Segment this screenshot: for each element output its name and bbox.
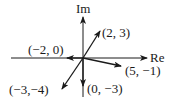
vector-label-2-3: (2, 3)	[102, 25, 130, 40]
vector-2-3	[83, 31, 100, 58]
vector-label-neg2-0: (−2, 0)	[28, 42, 64, 57]
imaginary-axis-label: Im	[76, 1, 90, 16]
vector-label-5-neg1: (5, −1)	[125, 63, 161, 78]
vector-label-0-neg3: (0, −3)	[87, 81, 123, 96]
vector-neg3-neg4	[62, 58, 83, 89]
vector-5-neg1	[83, 58, 121, 66]
complex-plane-diagram: Re Im (2, 3) (−2, 0) (5, −1) (−3,−4) (0,…	[0, 0, 182, 106]
vector-label-neg3-neg4: (−3,−4)	[9, 82, 49, 97]
